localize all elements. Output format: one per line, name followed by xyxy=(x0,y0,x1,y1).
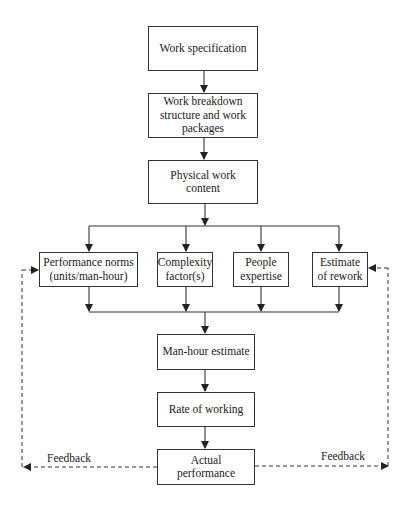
node-label: Rate of working xyxy=(169,403,244,417)
node-label: People expertise xyxy=(237,256,285,283)
node-label: Complexity factor(s) xyxy=(158,256,212,283)
node-label: Physical work content xyxy=(152,169,254,196)
node-label: Estimate of rework xyxy=(316,256,364,283)
node-label: Actual performance xyxy=(161,454,251,481)
node-physical-work-content: Physical work content xyxy=(148,160,258,204)
node-work-breakdown-structure: Work breakdown structure and work packag… xyxy=(148,93,258,138)
node-label: Work breakdown structure and work packag… xyxy=(152,95,254,136)
node-people-expertise: People expertise xyxy=(233,252,289,287)
node-label: Performance norms (units/man-hour) xyxy=(43,256,134,283)
node-rate-of-working: Rate of working xyxy=(157,392,255,427)
node-performance-norms: Performance norms (units/man-hour) xyxy=(39,252,138,287)
feedback-label-right: Feedback xyxy=(321,450,365,462)
node-estimate-of-rework: Estimate of rework xyxy=(312,252,368,287)
feedback-label-left: Feedback xyxy=(47,452,91,464)
node-complexity-factors: Complexity factor(s) xyxy=(157,252,213,287)
node-actual-performance: Actual performance xyxy=(157,449,255,485)
node-label: Work specification xyxy=(160,42,247,56)
node-work-specification: Work specification xyxy=(148,26,258,71)
node-label: Man-hour estimate xyxy=(162,345,249,359)
node-man-hour-estimate: Man-hour estimate xyxy=(157,334,255,370)
